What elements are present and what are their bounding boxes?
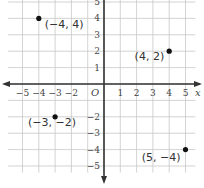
y-tick-label: −2 bbox=[87, 112, 100, 122]
x-tick-label: −2 bbox=[65, 88, 78, 98]
x-tick-label: −3 bbox=[48, 88, 62, 98]
x-tick-label: −4 bbox=[32, 88, 46, 98]
x-tick-label: 3 bbox=[150, 88, 156, 98]
x-tick-label: 1 bbox=[117, 88, 123, 98]
x-tick-label: −5 bbox=[16, 88, 30, 98]
y-axis-down-arrow-icon bbox=[101, 176, 107, 184]
grid bbox=[8, 0, 195, 173]
y-tick-label: 1 bbox=[94, 63, 100, 73]
data-point bbox=[36, 16, 41, 21]
x-axis-label: x bbox=[195, 87, 201, 98]
data-point bbox=[183, 147, 188, 152]
point-label: (5, −4) bbox=[142, 151, 181, 164]
y-tick-label: 4 bbox=[94, 13, 100, 23]
y-tick-label: 2 bbox=[94, 46, 100, 56]
y-tick-label: −4 bbox=[87, 145, 101, 155]
y-tick-label: 5 bbox=[94, 0, 100, 7]
y-tick-label: −3 bbox=[87, 128, 101, 138]
x-tick-label: 2 bbox=[134, 88, 140, 98]
y-tick-label: 3 bbox=[94, 30, 100, 40]
data-point bbox=[167, 49, 172, 54]
point-label: (−3, −2) bbox=[28, 116, 76, 129]
x-tick-label: 5 bbox=[183, 88, 189, 98]
point-label: (−4, 4) bbox=[45, 18, 84, 31]
x-axis-left-arrow-icon bbox=[2, 81, 10, 87]
origin-label: O bbox=[91, 87, 99, 98]
coordinate-plane: −5−4−3−212345xO54321−2−3−4−5(−4, 4)(4, 2… bbox=[0, 0, 204, 188]
point-label: (4, 2) bbox=[135, 50, 165, 63]
y-tick-label: −5 bbox=[87, 161, 101, 171]
x-tick-label: 4 bbox=[166, 88, 172, 98]
